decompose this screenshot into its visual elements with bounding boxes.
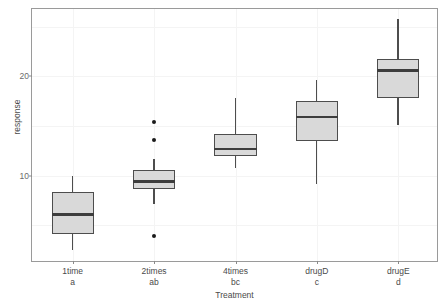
x-tick-mark — [398, 261, 399, 264]
x-tick-group-letter: bc — [223, 277, 248, 288]
x-tick-label-2times: 2timesab — [142, 266, 167, 288]
x-tick-category: 1time — [62, 266, 83, 276]
box-iqr — [296, 101, 338, 141]
plot-panel: 1020 1timea2timesab4timesbcdrugDcdrugEd — [31, 8, 438, 262]
x-tick-group-letter: ab — [142, 277, 167, 288]
y-tick-label: 20 — [20, 71, 29, 81]
x-tick-category: drugE — [387, 266, 410, 276]
x-tick-mark — [73, 261, 74, 264]
boxplot-figure: response 1020 1timea2timesab4timesbcdrug… — [0, 0, 442, 306]
x-tick-mark — [317, 261, 318, 264]
median-line — [377, 69, 419, 71]
median-line — [52, 213, 94, 215]
gridline-vertical — [154, 9, 155, 261]
x-tick-label-1time: 1timea — [62, 266, 83, 288]
x-tick-label-drugD: drugDc — [305, 266, 328, 288]
x-tick-mark — [154, 261, 155, 264]
gridline-horizontal — [32, 176, 437, 177]
x-tick-mark — [236, 261, 237, 264]
y-axis-label: response — [12, 87, 22, 147]
x-tick-group-letter: c — [305, 277, 328, 288]
box-iqr — [377, 59, 419, 99]
x-tick-label-4times: 4timesbc — [223, 266, 248, 288]
y-tick-mark — [29, 175, 32, 176]
y-tick-label: 10 — [20, 171, 29, 181]
outlier-point — [152, 138, 156, 142]
box-iqr — [133, 170, 175, 189]
x-tick-group-letter: d — [387, 277, 410, 288]
median-line — [296, 116, 338, 118]
median-line — [214, 148, 256, 150]
median-line — [133, 180, 175, 182]
x-tick-category: 2times — [142, 266, 167, 276]
whisker-line — [235, 98, 237, 167]
x-tick-category: drugD — [305, 266, 328, 276]
outlier-point — [152, 120, 156, 124]
y-tick-mark — [29, 76, 32, 77]
outlier-point — [152, 234, 156, 238]
gridline-horizontal-minor — [32, 27, 437, 28]
x-axis-label: Treatment — [31, 290, 438, 300]
x-tick-label-drugE: drugEd — [387, 266, 410, 288]
box-iqr — [214, 134, 256, 156]
x-tick-category: 4times — [223, 266, 248, 276]
x-tick-group-letter: a — [62, 277, 83, 288]
